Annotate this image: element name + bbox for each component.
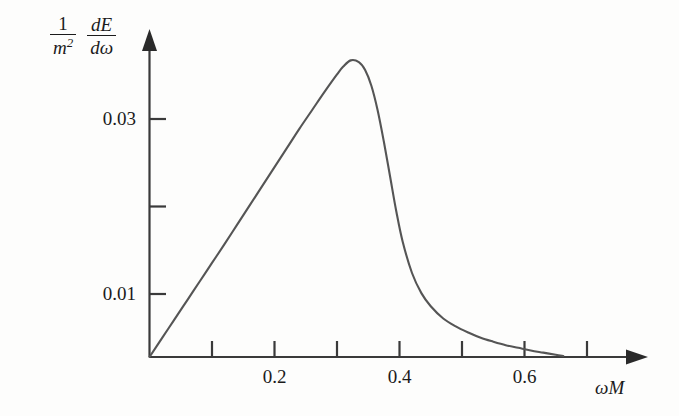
x-axis-name: ωM — [595, 377, 624, 399]
y-axis-label-prefactor: 1 m2 — [50, 14, 76, 57]
x-tick-label-0.6: 0.6 — [513, 366, 537, 388]
y-axis-label-denominator-2: dω — [87, 35, 116, 57]
y-tick-label-0.03: 0.03 — [103, 108, 136, 130]
x-tick-label-0.2: 0.2 — [263, 366, 287, 388]
y-axis-label-numerator-2: dE — [88, 15, 115, 35]
x-tick-label-0.4: 0.4 — [388, 366, 412, 388]
y-axis-label-derivative: dE dω — [87, 15, 116, 57]
plot-svg — [0, 0, 679, 416]
y-axis-label-denominator-1-base: m — [53, 37, 67, 58]
data-curve — [150, 60, 564, 357]
y-axis-arrowhead — [142, 29, 157, 51]
y-axis-label-numerator-1: 1 — [55, 14, 71, 34]
y-tick-label-0.01: 0.01 — [103, 283, 136, 305]
y-axis-label-denominator-1: m2 — [50, 34, 76, 57]
figure-container: 1 m2 dE dω 0.03 0.01 0.2 0.4 0.6 ωM — [0, 0, 679, 416]
y-axis-label: 1 m2 dE dω — [50, 14, 116, 57]
x-axis-arrowhead — [626, 350, 648, 365]
y-axis-label-denominator-1-exponent: 2 — [67, 35, 73, 50]
